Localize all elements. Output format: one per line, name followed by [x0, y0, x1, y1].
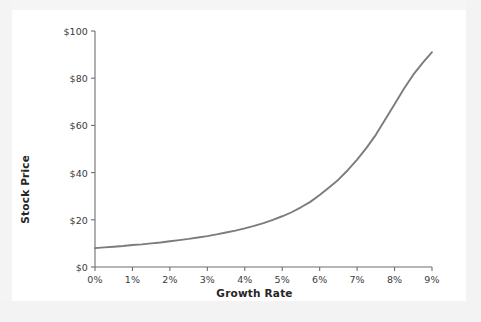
chart-figure: $0$20$40$60$80$100 0%1%2%3%4%5%6%7%8%9% …: [0, 0, 481, 322]
x-tick-label: 0%: [87, 274, 102, 285]
x-tick-label: 2%: [162, 274, 177, 285]
x-tick-label: 1%: [125, 274, 140, 285]
x-tick-label: 6%: [312, 274, 327, 285]
x-tick-label: 7%: [349, 274, 364, 285]
x-tick-label: 5%: [275, 274, 290, 285]
x-tick-label: 4%: [237, 274, 252, 285]
y-axis-title: Stock Price: [19, 155, 31, 224]
y-tick-label: $60: [40, 120, 88, 131]
x-axis-title: Growth Rate: [0, 287, 481, 299]
y-tick-label: $0: [40, 262, 88, 273]
y-tick-label: $40: [40, 167, 88, 178]
x-tick-label: 9%: [424, 274, 439, 285]
x-tick-label: 3%: [200, 274, 215, 285]
y-tick-label: $80: [40, 73, 88, 84]
x-axis-ticks: [95, 267, 432, 271]
x-tick-label: 8%: [387, 274, 402, 285]
y-tick-label: $20: [40, 214, 88, 225]
y-tick-label: $100: [40, 26, 88, 37]
data-series-line: [95, 52, 432, 248]
y-axis-ticks: [91, 31, 95, 267]
